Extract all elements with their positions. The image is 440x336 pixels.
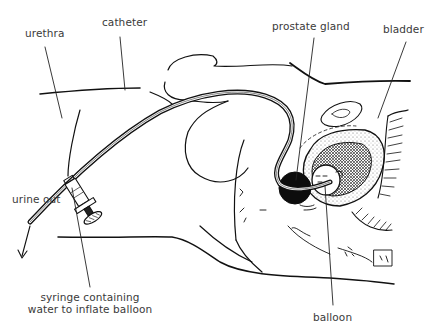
label-catheter: catheter: [102, 16, 147, 28]
leader-urethra: [45, 47, 62, 118]
body-outline-lower: [58, 226, 394, 284]
bladder: [300, 126, 384, 206]
anatomy-details: [240, 189, 392, 266]
pubic-bone: [321, 102, 362, 127]
label-balloon: balloon: [313, 311, 352, 323]
label-prostate-gland: prostate gland: [272, 20, 350, 32]
catheter-anatomy-diagram: [0, 0, 440, 336]
inflation-line: [68, 110, 80, 176]
urine-out-arrow: [18, 226, 30, 258]
label-bladder: bladder: [383, 23, 424, 35]
label-urethra: urethra: [25, 27, 64, 39]
label-syringe-line2: water to inflate balloon: [20, 303, 160, 315]
label-urine-out: urine out: [12, 193, 60, 205]
leader-catheter: [120, 37, 125, 90]
syringe-icon: [59, 172, 105, 227]
body-outline-upper: [40, 63, 410, 104]
label-syringe: syringe containing water to inflate ball…: [20, 291, 160, 315]
label-syringe-line1: syringe containing: [20, 291, 160, 303]
